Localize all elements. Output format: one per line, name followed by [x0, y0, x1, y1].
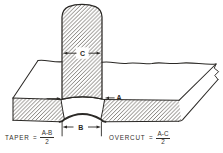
front-bottom-edge-left	[13, 120, 60, 122]
arrowhead-left-icon	[63, 126, 67, 129]
taper-fraction: A-B 2	[40, 130, 54, 145]
front-bottom-edge-right	[105, 121, 178, 122]
dimension-a-label: A	[117, 94, 122, 101]
dimension-c-label: C	[80, 50, 85, 57]
dimension-b-label: B	[78, 124, 83, 131]
taper-formula-name: TAPER	[5, 135, 30, 141]
overcut-formula-name: OVERCUT	[109, 135, 145, 141]
overcut-formula: OVERCUT = A-C 2	[109, 131, 170, 146]
overcut-denominator: 2	[161, 139, 165, 146]
taper-denominator: 2	[45, 138, 49, 145]
taper-formula: TAPER = A-B 2	[5, 130, 54, 145]
overcut-fraction: A-C 2	[156, 131, 170, 146]
dimension-b: B	[62, 121, 101, 136]
taper-equals-sign: =	[33, 135, 37, 141]
taper-numerator: A-B	[40, 130, 54, 138]
overcut-equals-sign: =	[149, 135, 153, 141]
technical-diagram: C A B TAPER = A-B 2 OVERCUT	[0, 0, 223, 153]
arrowhead-right-icon	[97, 126, 101, 129]
